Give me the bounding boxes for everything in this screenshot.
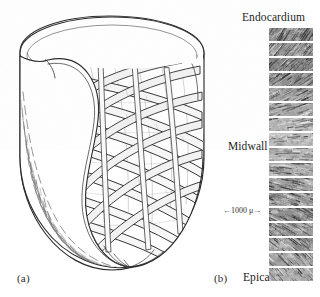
panel-b-caption: (b) xyxy=(214,272,227,284)
histology-strip xyxy=(269,103,313,116)
endocardium-label: Endocardium xyxy=(242,11,305,23)
histology-strip xyxy=(269,43,313,56)
histology-strip xyxy=(269,58,313,71)
panel-b-histology-column: Endocardium Midwall ←1000 μ→ Epicardium … xyxy=(218,0,320,297)
histology-strip xyxy=(269,178,313,191)
histology-strip xyxy=(269,208,313,221)
histology-strip xyxy=(269,193,313,206)
histology-strip xyxy=(269,118,313,131)
histology-strip-stack xyxy=(269,28,313,283)
histology-strip xyxy=(269,223,313,236)
histology-strip xyxy=(269,28,313,41)
histology-strip xyxy=(269,88,313,101)
panel-a-heart-diagram: (a) xyxy=(0,0,218,297)
heart-fiber-architecture-svg xyxy=(6,8,218,278)
scale-bar-label: ←1000 μ→ xyxy=(223,206,261,215)
scientific-figure: (a) Endocardium Midwall ←1000 μ→ Epicard… xyxy=(0,0,320,297)
panel-a-caption: (a) xyxy=(17,272,30,284)
histology-strip xyxy=(269,133,313,146)
midwall-label: Midwall xyxy=(228,140,268,152)
histology-strip xyxy=(269,268,313,281)
histology-strip xyxy=(269,148,313,161)
histology-strip xyxy=(269,163,313,176)
histology-strip xyxy=(269,253,313,266)
histology-strip xyxy=(269,238,313,251)
histology-strip xyxy=(269,73,313,86)
